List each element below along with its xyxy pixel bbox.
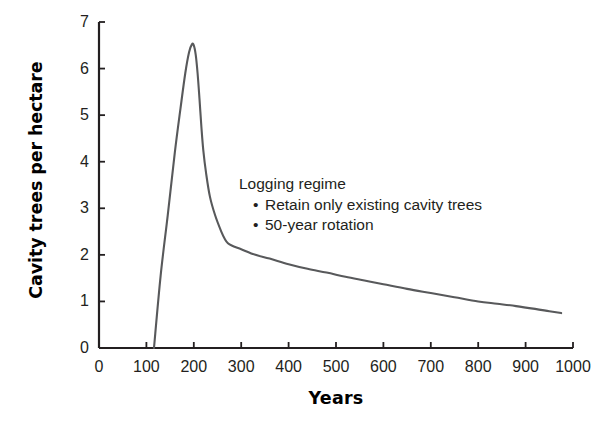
y-tick-label: 7 (65, 13, 89, 31)
y-tick-label: 0 (65, 339, 89, 357)
bullet-dot-icon: • (253, 195, 265, 216)
x-tick-label: 300 (228, 358, 255, 376)
annotation-bullet-2: •50-year rotation (239, 215, 482, 236)
chart-figure: Cavity trees per hectare Years 010020030… (0, 0, 611, 424)
annotation-heading: Logging regime (239, 174, 482, 195)
y-tick-label: 4 (65, 153, 89, 171)
x-tick-label: 700 (417, 358, 444, 376)
y-tick-label: 5 (65, 106, 89, 124)
x-tick-label: 900 (512, 358, 539, 376)
y-tick-label: 3 (65, 199, 89, 217)
annotation-bullet-1: •Retain only existing cavity trees (239, 195, 482, 216)
y-tick-label: 1 (65, 292, 89, 310)
y-tick-label: 6 (65, 60, 89, 78)
x-tick-label: 0 (95, 358, 104, 376)
logging-regime-annotation: Logging regime •Retain only existing cav… (239, 174, 482, 236)
y-axis-title: Cavity trees per hectare (26, 30, 46, 330)
x-tick-label: 200 (180, 358, 207, 376)
x-tick-label: 100 (133, 358, 160, 376)
annotation-bullet-1-text: Retain only existing cavity trees (265, 196, 482, 213)
x-tick-label: 600 (370, 358, 397, 376)
x-tick-label: 800 (465, 358, 492, 376)
x-axis-title: Years (99, 388, 573, 408)
x-tick-label: 500 (323, 358, 350, 376)
bullet-dot-icon: • (253, 215, 265, 236)
y-tick-label: 2 (65, 246, 89, 264)
annotation-bullet-2-text: 50-year rotation (265, 216, 374, 233)
x-tick-label: 400 (275, 358, 302, 376)
x-tick-label: 1000 (555, 358, 591, 376)
